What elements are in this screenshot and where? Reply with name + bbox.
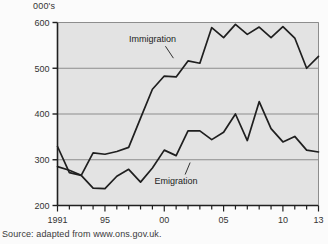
y-axis-ticks: 200300400500600 <box>34 18 57 211</box>
svg-text:300: 300 <box>34 155 49 165</box>
svg-text:600: 600 <box>34 18 49 28</box>
svg-text:200: 200 <box>34 201 49 211</box>
chart-plot-svg: 200300400500600 19919500051013 Immigrati… <box>0 0 328 244</box>
migration-line-chart-figure: 000's 200300400500600 19919500051013 Imm… <box>0 0 328 244</box>
source-caption: Source: adapted from www.ons.gov.uk. <box>2 229 162 239</box>
svg-text:400: 400 <box>34 109 49 119</box>
svg-text:95: 95 <box>100 215 110 225</box>
svg-text:Immigration: Immigration <box>129 34 176 44</box>
svg-text:Emigration: Emigration <box>155 176 198 186</box>
svg-text:00: 00 <box>159 215 169 225</box>
svg-text:13: 13 <box>313 215 323 225</box>
svg-text:1991: 1991 <box>47 215 67 225</box>
svg-text:500: 500 <box>34 64 49 74</box>
x-axis-ticks: 19919500051013 <box>47 206 323 225</box>
svg-text:05: 05 <box>219 215 229 225</box>
svg-text:10: 10 <box>278 215 288 225</box>
